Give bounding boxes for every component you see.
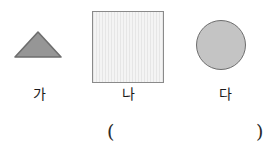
circle-shape: [196, 20, 246, 70]
answer-blank[interactable]: [116, 118, 254, 144]
answer-close-paren: ): [256, 118, 263, 144]
figure-canvas: 가 나 다 ( ): [0, 0, 269, 153]
triangle-shape: [14, 31, 62, 59]
answer-open-paren: (: [107, 118, 114, 144]
shape-label-ga: 가: [9, 85, 69, 103]
shapes-row: [0, 0, 269, 84]
answer-row: ( ): [0, 118, 269, 148]
square-shape: [92, 11, 164, 83]
labels-row: 가 나 다: [0, 85, 269, 105]
shape-label-na: 나: [98, 85, 158, 103]
shape-label-da: 다: [195, 85, 255, 103]
